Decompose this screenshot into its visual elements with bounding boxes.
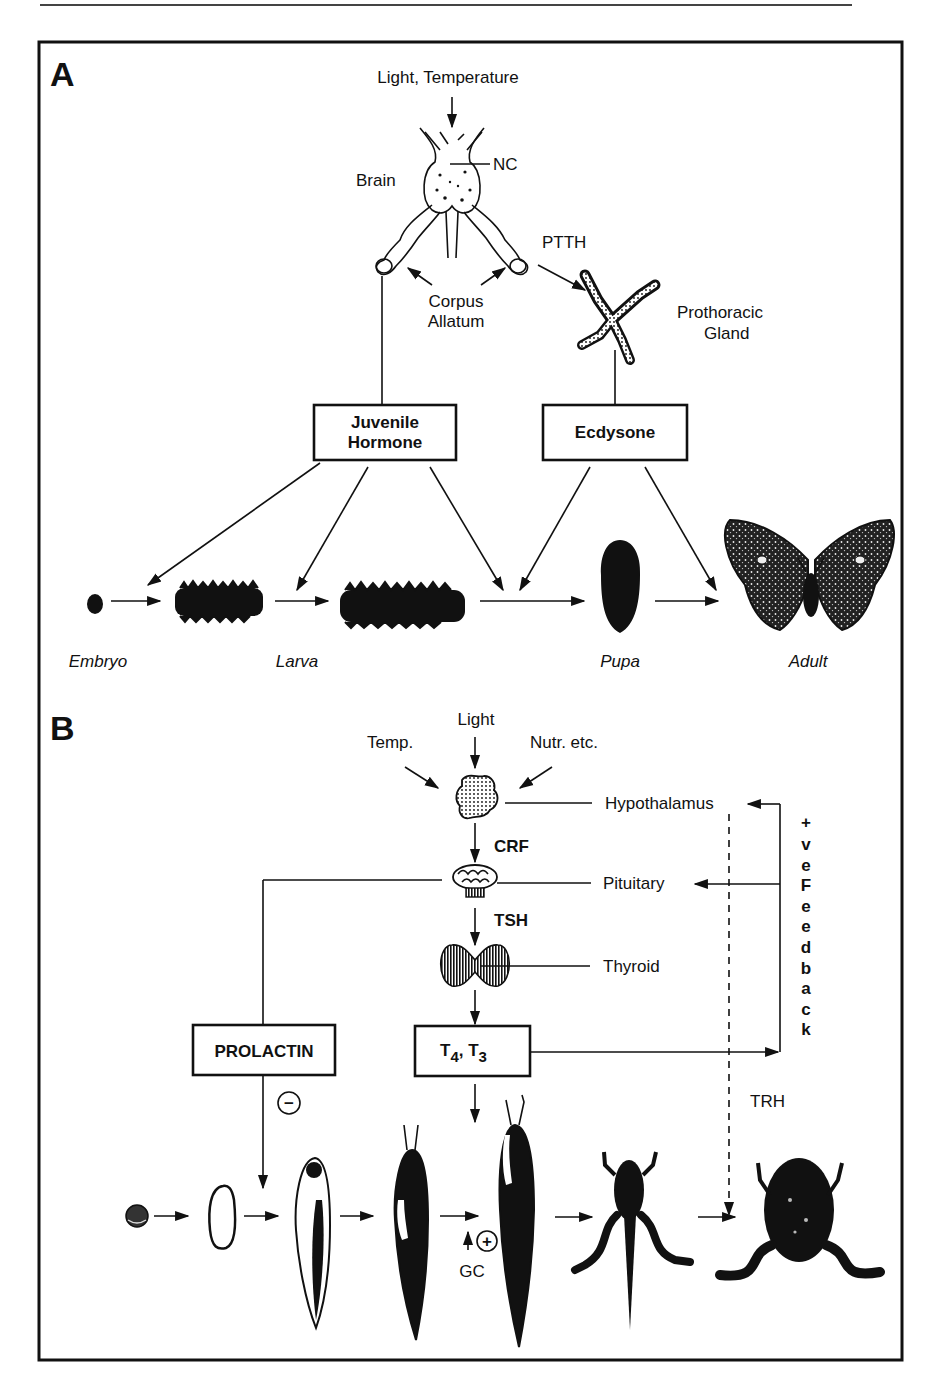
temp-arrow	[405, 767, 438, 788]
panel-a-label: A	[50, 55, 75, 93]
nutr-label: Nutr. etc.	[530, 733, 598, 752]
brain-label: Brain	[356, 171, 396, 190]
corpus-allatum-label-2: Allatum	[428, 312, 485, 331]
prothoracic-label-1: Prothoracic	[677, 303, 763, 322]
stage-embryo-label: Embryo	[69, 652, 128, 671]
tadpole-early-icon	[296, 1158, 330, 1328]
tsh-label: TSH	[494, 911, 528, 930]
svg-text:+: +	[801, 813, 811, 832]
frog-egg-icon	[126, 1205, 148, 1227]
feedback-label: + v e F e e d b a c k	[801, 813, 811, 1039]
corpus-arrow-right	[481, 268, 505, 285]
jh-arrow-larva	[297, 467, 368, 590]
adult-frog-icon	[720, 1158, 880, 1276]
prolactin-label: PROLACTIN	[214, 1042, 313, 1061]
jh-label-1: Juvenile	[351, 413, 419, 432]
tadpole-mid-icon	[395, 1125, 428, 1340]
ecdysone-label: Ecdysone	[575, 423, 655, 442]
prothoracic-gland-icon	[582, 275, 655, 360]
pupa-icon	[601, 540, 640, 633]
trh-label: TRH	[750, 1092, 785, 1111]
ptth-arrow	[538, 265, 585, 290]
corpus-allatum-label-1: Corpus	[429, 292, 484, 311]
svg-text:e: e	[801, 897, 810, 916]
hypothalamus-label: Hypothalamus	[605, 794, 714, 813]
prothoracic-label-2: Gland	[704, 324, 749, 343]
nutr-arrow	[520, 767, 552, 788]
froglet-icon	[575, 1152, 690, 1330]
jh-arrow-embryo	[148, 463, 320, 585]
adult-moth-icon	[725, 520, 894, 630]
svg-text:c: c	[801, 1000, 810, 1019]
larva-small-icon	[175, 581, 263, 622]
ecd-arrow-pupa	[520, 467, 590, 590]
hypothalamus-icon	[456, 776, 497, 819]
minus-sign: −	[284, 1094, 294, 1113]
ecd-arrow-adult	[645, 467, 716, 590]
larva-large-icon	[340, 582, 465, 628]
brain-icon	[376, 128, 528, 274]
endocrine-diagram: A Light, Temperature NC Brain PTTH Corpu…	[0, 0, 943, 1396]
light-temperature-label: Light, Temperature	[377, 68, 518, 87]
pituitary-icon	[453, 865, 497, 897]
tadpole-late-icon	[500, 1095, 534, 1347]
crf-label: CRF	[494, 837, 529, 856]
pituitary-label: Pituitary	[603, 874, 665, 893]
svg-text:e: e	[801, 856, 810, 875]
figure-frame	[39, 42, 902, 1360]
jh-arrow-pupa	[430, 467, 503, 590]
panel-b-label: B	[50, 709, 75, 747]
corpus-arrow-left	[408, 268, 432, 285]
svg-text:v: v	[801, 835, 811, 854]
light-label: Light	[458, 710, 495, 729]
ptth-label: PTTH	[542, 233, 586, 252]
svg-text:b: b	[801, 959, 811, 978]
embryo-icon	[87, 594, 103, 614]
svg-text:F: F	[801, 876, 811, 895]
stage-adult-label: Adult	[788, 652, 829, 671]
nc-label: NC	[493, 155, 518, 174]
thyroid-label: Thyroid	[603, 957, 660, 976]
temp-label: Temp.	[367, 733, 413, 752]
svg-text:k: k	[801, 1020, 811, 1039]
plus-sign: +	[482, 1232, 492, 1251]
gc-label: GC	[459, 1262, 485, 1281]
svg-text:a: a	[801, 979, 811, 998]
svg-text:e: e	[801, 917, 810, 936]
embryo-stage-icon	[209, 1186, 235, 1249]
svg-text:d: d	[801, 938, 811, 957]
stage-larva-label: Larva	[276, 652, 319, 671]
jh-label-2: Hormone	[348, 433, 423, 452]
stage-pupa-label: Pupa	[600, 652, 640, 671]
